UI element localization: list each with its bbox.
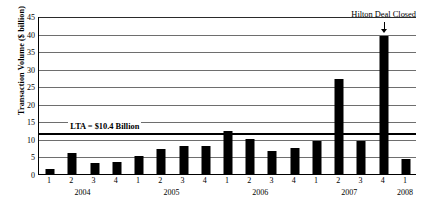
- x-tick-quarter-label: 3: [92, 176, 96, 185]
- lta-reference-label: LTA = $10.4 Billion: [68, 122, 141, 131]
- x-tick-quarter-label: 1: [47, 176, 51, 185]
- x-tick-year-label: 2007: [341, 188, 357, 197]
- lta-reference-line: [39, 133, 416, 135]
- bar-slot: [195, 17, 217, 175]
- y-tick-label: 15: [27, 118, 35, 127]
- x-tick-quarter-label: 1: [136, 176, 140, 185]
- x-tick-year-label: 2008: [397, 188, 413, 197]
- bar-slot: [239, 17, 261, 175]
- bar-slot: [128, 17, 150, 175]
- x-tick-quarter-label: 1: [403, 176, 407, 185]
- bar: [290, 148, 299, 175]
- bar-slot: [306, 17, 328, 175]
- bar-slot: [217, 17, 239, 175]
- y-tick-label: 0: [31, 171, 35, 180]
- bar-slot: [284, 17, 306, 175]
- y-tick-label: 40: [27, 30, 35, 39]
- bar-series: [39, 17, 416, 175]
- x-tick-year-label: 2004: [74, 188, 90, 197]
- bar-slot: [395, 17, 417, 175]
- x-tick-quarter-label: 2: [336, 176, 340, 185]
- bar: [68, 153, 77, 175]
- x-tick-quarter-label: 1: [314, 176, 318, 185]
- y-tick-label: 5: [31, 153, 35, 162]
- x-tick-quarter-label: 4: [203, 176, 207, 185]
- y-tick-label: 30: [27, 65, 35, 74]
- bar-slot: [373, 17, 395, 175]
- bar: [157, 149, 166, 175]
- bar: [401, 159, 410, 175]
- bar: [312, 141, 321, 175]
- bar: [379, 36, 388, 175]
- bar-slot: [39, 17, 61, 175]
- y-tick-label: 45: [27, 13, 35, 22]
- x-tick-quarter-label: 2: [158, 176, 162, 185]
- y-tick-label: 20: [27, 100, 35, 109]
- x-tick-quarter-label: 4: [114, 176, 118, 185]
- bar-slot: [61, 17, 83, 175]
- x-tick-quarter-label: 1: [225, 176, 229, 185]
- bar: [179, 146, 188, 175]
- x-tick-quarter-label: 3: [269, 176, 273, 185]
- bar-slot: [83, 17, 105, 175]
- bar-slot: [172, 17, 194, 175]
- x-tick-year-label: 2006: [252, 188, 268, 197]
- bar-slot: [150, 17, 172, 175]
- x-tick-quarter-label: 3: [181, 176, 185, 185]
- bar: [112, 162, 121, 175]
- bar: [335, 79, 344, 175]
- bar-slot: [328, 17, 350, 175]
- bar-slot: [261, 17, 283, 175]
- hilton-deal-annotation-label: Hilton Deal Closed: [351, 10, 416, 19]
- y-tick-label: 35: [27, 48, 35, 57]
- x-tick-quarter-label: 2: [69, 176, 73, 185]
- y-tick-label: 25: [27, 83, 35, 92]
- x-tick-quarter-label: 3: [358, 176, 362, 185]
- x-tick-year-label: 2005: [163, 188, 179, 197]
- bar: [223, 131, 232, 175]
- x-tick-quarter-label: 2: [247, 176, 251, 185]
- bar: [201, 146, 210, 175]
- bar-slot: [106, 17, 128, 175]
- x-tick-quarter-label: 4: [292, 176, 296, 185]
- transaction-volume-bar-chart: Transaction Volume ($ billion) 051015202…: [0, 0, 426, 207]
- y-tick-label: 10: [27, 135, 35, 144]
- x-axis-labels: 1234123412341234120042005200620072008: [38, 176, 416, 207]
- bar-slot: [350, 17, 372, 175]
- x-axis-baseline: [39, 174, 416, 175]
- bar: [246, 139, 255, 175]
- y-axis-title: Transaction Volume ($ billion): [17, 0, 26, 136]
- bar: [268, 151, 277, 175]
- bar: [357, 141, 366, 175]
- bar: [135, 156, 144, 175]
- plot-area: 051015202530354045 LTA = $10.4 Billion H…: [38, 17, 416, 175]
- x-tick-quarter-label: 4: [381, 176, 385, 185]
